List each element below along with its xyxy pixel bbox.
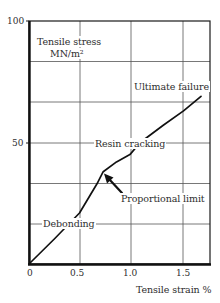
annotation-resin-cracking: Resin cracking xyxy=(94,138,166,149)
y-tick-label-50: 50 xyxy=(12,138,23,148)
x-axis-label: Tensile strain % xyxy=(136,284,211,295)
y-axis-label-line2: MN/m² xyxy=(49,48,85,59)
x-tick-label-1.5: 1.5 xyxy=(176,268,190,278)
x-tick-label-0: 0 xyxy=(27,268,33,278)
annotation-ultimate-failure: Ultimate failure xyxy=(133,81,210,92)
stress-strain-curve xyxy=(29,96,201,264)
x-tick-label-1.0: 1.0 xyxy=(123,268,137,278)
y-axis-label-line1: Tensile stress xyxy=(36,36,102,47)
chart-canvas xyxy=(0,0,220,303)
annotation-debonding: Debonding xyxy=(42,218,96,229)
y-tick-label-100: 100 xyxy=(7,16,24,26)
annotation-proportional-limit: Proportional limit xyxy=(120,193,206,204)
x-tick-label-0.5: 0.5 xyxy=(70,268,84,278)
